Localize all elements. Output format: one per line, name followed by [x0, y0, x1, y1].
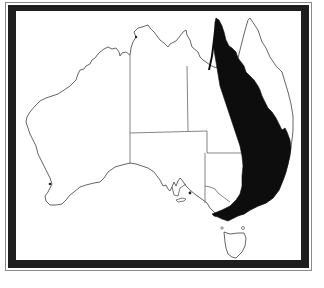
perth-marker — [49, 183, 52, 186]
distribution-map — [0, 0, 324, 288]
australia-map-svg — [0, 0, 324, 288]
adelaide-marker — [189, 192, 192, 195]
darwin-marker — [135, 36, 137, 38]
